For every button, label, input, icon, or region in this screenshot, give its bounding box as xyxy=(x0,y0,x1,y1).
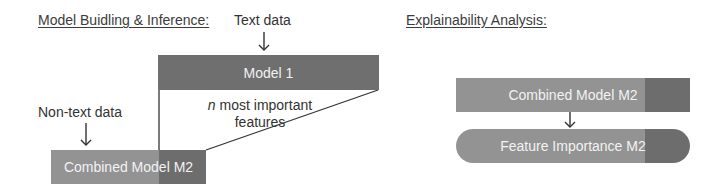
combined-model-m2-label-right: Combined Model M2 xyxy=(508,87,637,103)
explain-arrow-icon xyxy=(565,112,575,127)
text-data-arrow-icon xyxy=(259,32,269,50)
text-data-label: Text data xyxy=(234,12,291,28)
connector-label-n: n xyxy=(208,97,216,113)
explainability-heading: Explainability Analysis: xyxy=(406,12,547,29)
feature-importance-m2-label: Feature Importance M2 xyxy=(500,138,646,154)
combined-model-m2-label-left: Combined Model M2 xyxy=(64,159,193,175)
model-1-label: Model 1 xyxy=(244,65,294,81)
non-text-data-label: Non-text data xyxy=(38,104,122,120)
non-text-data-arrow-icon xyxy=(81,123,91,145)
feature-importance-m2-pill: Feature Importance M2 xyxy=(456,129,690,163)
combined-model-m2-box-left: Combined Model M2 xyxy=(51,150,206,184)
connector-label: n most important features xyxy=(185,97,335,131)
combined-model-m2-box-right: Combined Model M2 xyxy=(456,78,690,112)
connector-label-rest: most important xyxy=(216,97,312,113)
model-building-heading: Model Buidling & Inference: xyxy=(38,12,209,29)
connector-label-line2: features xyxy=(185,114,335,131)
model-1-box: Model 1 xyxy=(158,55,379,90)
